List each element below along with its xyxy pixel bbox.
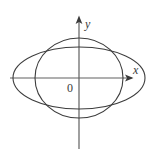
x-axis-label: x [133, 64, 138, 76]
figure-container: y x 0 [0, 0, 147, 155]
coordinate-plot [0, 0, 147, 155]
y-axis-label: y [85, 18, 90, 30]
origin-label: 0 [67, 82, 73, 94]
